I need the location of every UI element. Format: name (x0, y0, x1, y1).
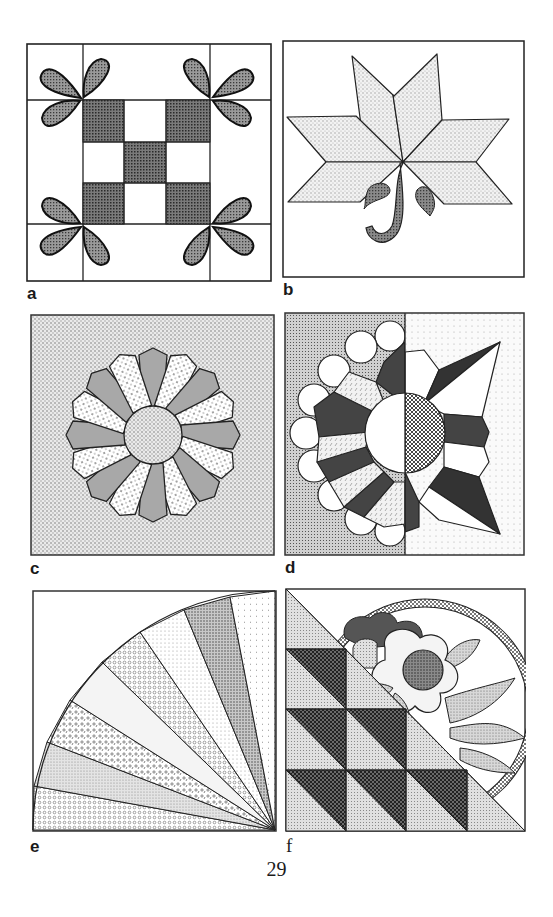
figure-e (32, 590, 277, 832)
nine-patch-teardrop-illustration (26, 43, 272, 282)
figure-label-c: c (30, 560, 39, 577)
page-number: 29 (0, 858, 553, 881)
figure-c (30, 314, 275, 556)
figure-f (285, 588, 526, 832)
figure-label-d: d (285, 559, 295, 576)
figure-label-f: f (286, 836, 292, 855)
figure-label-e: e (30, 838, 39, 855)
figure-label-b: b (283, 281, 293, 298)
figure-d (284, 312, 525, 556)
triangles-flower-hoop-illustration (285, 588, 526, 832)
diamond-star-flower-illustration (282, 40, 525, 278)
figure-label-a: a (27, 285, 36, 302)
figure-a (26, 43, 272, 282)
figure-b (282, 40, 525, 278)
quarter-fan-illustration (32, 590, 277, 832)
dresden-plate-illustration (30, 314, 275, 556)
split-sunflower-illustration (284, 312, 525, 556)
